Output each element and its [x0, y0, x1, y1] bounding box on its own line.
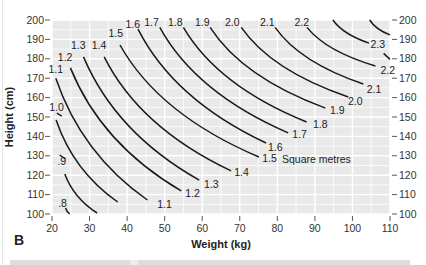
curve-label: 1.2 [58, 51, 73, 63]
curve-label: .9 [57, 155, 66, 167]
curve-label: .8 [58, 197, 67, 209]
y-axis-title: Height (cm) [3, 86, 15, 147]
y-tick-label-right: 190 [399, 33, 417, 45]
y-tick-label-right: 140 [399, 130, 417, 142]
curve-label: 1.7 [144, 16, 159, 28]
y-tick-label: 100 [26, 208, 44, 220]
y-tick-label-right: 170 [399, 72, 417, 84]
curve-end-label: 1.4 [234, 166, 249, 178]
curve-label: 1.5 [109, 27, 124, 39]
x-tick-label: 110 [382, 222, 399, 234]
units-annotation: Square metres [282, 153, 351, 165]
y-axis-right: 100110120130140150160170180190200 [392, 14, 417, 220]
x-tick-label: 40 [121, 222, 133, 234]
y-tick-label: 180 [26, 52, 44, 64]
curve-end-label: 1.8 [313, 118, 328, 130]
x-tick-label: 20 [46, 222, 58, 234]
curve-label: 1.3 [71, 39, 86, 51]
y-tick-label: 130 [26, 149, 44, 161]
curve-end-label: 1.2 [185, 187, 200, 199]
x-tick-label: 30 [84, 222, 96, 234]
curve-label: 1.4 [92, 39, 107, 51]
y-tick-label: 120 [26, 169, 44, 181]
x-tick-label: 90 [309, 222, 321, 234]
x-axis-title: Weight (kg) [191, 238, 251, 250]
curve-label: 2.1 [260, 16, 275, 28]
panel-label: B [14, 232, 24, 248]
curve-label: 1.0 [49, 101, 64, 113]
y-tick-label: 160 [26, 91, 44, 103]
y-tick-label-right: 130 [399, 149, 417, 161]
y-tick-label: 140 [26, 130, 44, 142]
curve-end-label: 2.3 [370, 38, 385, 50]
x-tick-label: 70 [234, 222, 246, 234]
curve-end-label: 1.9 [330, 104, 345, 116]
y-tick-label-right: 100 [399, 208, 417, 220]
curve-label: 1.6 [125, 18, 140, 30]
x-tick-label: 60 [196, 222, 208, 234]
y-tick-label: 190 [26, 33, 44, 45]
y-tick-label: 150 [26, 111, 44, 123]
curve-end-label: 2.2 [381, 64, 396, 76]
curve-label: 1.8 [168, 16, 183, 28]
y-tick-label-right: 150 [399, 111, 417, 123]
x-tick-label: 80 [271, 222, 283, 234]
curve-end-label: 1.3 [204, 178, 219, 190]
curve-end-label: 1.1 [157, 198, 172, 210]
x-axis: 2030405060708090100110 [46, 216, 398, 234]
curve-end-label: 1.7 [292, 128, 307, 140]
y-tick-label-right: 110 [399, 188, 416, 200]
x-tick-label: 100 [344, 222, 362, 234]
y-tick-label-right: 180 [399, 52, 417, 64]
x-tick-label: 50 [159, 222, 171, 234]
y-axis-left: 100110120130140150160170180190200 [26, 14, 50, 220]
curve-label: 2.2 [294, 16, 309, 28]
y-tick-label-right: 160 [399, 91, 417, 103]
bsa-nomogram-chart: .8.91.01.11.11.21.21.31.31.41.41.51.51.6… [0, 0, 426, 265]
y-tick-label: 200 [26, 14, 44, 26]
curve-label: 1.9 [195, 16, 210, 28]
curve-end-label: 2.0 [348, 95, 363, 107]
curve-end-label: 1.5 [262, 152, 277, 164]
curve-end-label: 1.6 [268, 141, 283, 153]
y-tick-label: 110 [27, 188, 44, 200]
curve-label: 2.0 [225, 16, 240, 28]
y-tick-label-right: 120 [399, 169, 417, 181]
curve-end-label: 2.1 [367, 83, 382, 95]
clipped-caption-text [10, 260, 410, 265]
y-tick-label-right: 200 [399, 14, 417, 26]
curve-label: 1.1 [48, 63, 63, 75]
y-tick-label: 170 [26, 72, 44, 84]
